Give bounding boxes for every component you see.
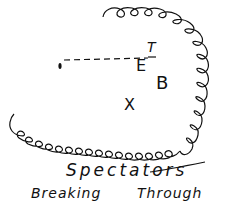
ball-marker-icon: [58, 63, 61, 69]
caption-through: Through: [137, 186, 202, 200]
label-b: B: [156, 74, 168, 92]
spectator-loops-bottom: [10, 114, 180, 160]
label-e: E: [136, 58, 146, 74]
diagram-canvas: T E B X Spectators Breaking Through: [0, 0, 230, 204]
caption-breaking: Breaking: [31, 186, 101, 200]
label-x: X: [124, 97, 135, 113]
caption-spectators: Spectators: [66, 162, 187, 179]
label-t: T: [147, 40, 156, 54]
